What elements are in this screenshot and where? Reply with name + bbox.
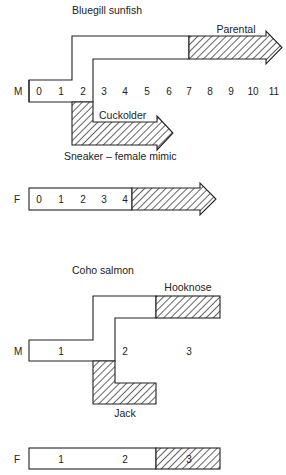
svg-text:9: 9 [228,86,234,97]
svg-text:4: 4 [122,194,128,205]
bluegill-title: Bluegill sunfish [72,4,142,16]
svg-text:2: 2 [122,346,128,357]
parental-label: Parental [216,23,255,35]
svg-text:1: 1 [58,86,64,97]
svg-text:2: 2 [80,86,86,97]
cuckolder-label: Cuckolder [99,109,147,121]
sneaker-label: Sneaker – female mimic [64,150,177,162]
svg-text:8: 8 [207,86,213,97]
svg-text:1: 1 [58,194,64,205]
life-history-diagram: Bluegill sunfish Parental Cuckolder Snea… [0,0,286,475]
svg-text:1: 1 [58,346,64,357]
coho-title: Coho salmon [72,264,134,276]
svg-text:7: 7 [186,86,192,97]
svg-text:11: 11 [269,86,280,97]
coho-female-row-label: F [14,454,20,465]
bluegill-female-row-label: F [14,194,20,205]
bluegill-male-row-label: M [14,86,22,97]
svg-text:0: 0 [36,194,42,205]
svg-text:6: 6 [166,86,172,97]
svg-text:3: 3 [101,194,107,205]
svg-text:10: 10 [247,86,259,97]
svg-text:4: 4 [122,86,128,97]
parental-path [29,31,282,102]
svg-text:1: 1 [58,454,64,465]
svg-text:2: 2 [80,194,86,205]
svg-text:5: 5 [144,86,150,97]
jack-path [93,361,156,404]
svg-text:3: 3 [186,454,192,465]
jack-label: Jack [114,407,136,419]
svg-text:3: 3 [186,346,192,357]
svg-text:0: 0 [36,86,42,97]
svg-text:3: 3 [101,86,107,97]
svg-text:2: 2 [122,454,128,465]
coho-male-row-label: M [14,346,22,357]
hooknose-label: Hooknose [164,281,211,293]
